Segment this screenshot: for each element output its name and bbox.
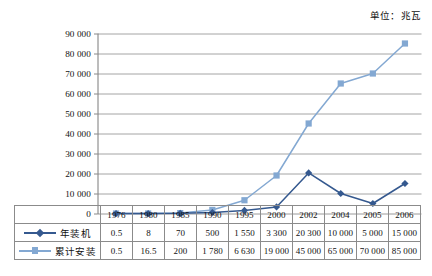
- table-cell: 0.5: [101, 224, 133, 242]
- y-axis-tick-label: 40 000: [65, 129, 91, 139]
- legend-cell-cumulative: 累计安装: [15, 242, 101, 260]
- table-header-year-1985: 1985: [165, 206, 197, 224]
- legend-swatch-icon: [24, 227, 56, 238]
- table-cell: 70: [165, 224, 197, 242]
- table-cell: 200: [165, 242, 197, 260]
- chart-plot-area: 010 00020 00030 00040 00050 00060 00070 …: [0, 0, 432, 222]
- table-cell: 65 000: [325, 242, 357, 260]
- table-header-year-2000: 2000: [261, 206, 293, 224]
- y-axis-tick-labels: 010 00020 00030 00040 00050 00060 00070 …: [65, 29, 91, 219]
- y-axis-tick-label: 80 000: [65, 49, 91, 59]
- table-corner-cell: [15, 206, 101, 224]
- gridlines: [94, 34, 422, 214]
- table-cell: 500: [197, 224, 229, 242]
- table-header-year-1980: 1980: [133, 206, 165, 224]
- y-axis-tick-label: 90 000: [65, 29, 91, 39]
- y-axis-tick-label: 30 000: [65, 149, 91, 159]
- legend-marker-square-icon: [32, 247, 39, 254]
- y-axis-tick-label: 10 000: [65, 189, 91, 199]
- table-row: 累计安装0.516.52001 7806 63019 00045 00065 0…: [15, 242, 421, 260]
- table-row: 年装机0.58705001 5503 30020 30010 0005 0001…: [15, 224, 421, 242]
- table-cell: 70 000: [357, 242, 389, 260]
- table-cell: 3 300: [261, 224, 293, 242]
- table-cell: 1 780: [197, 242, 229, 260]
- legend-marker-diamond-icon: [36, 228, 44, 236]
- table-cell: 1 550: [229, 224, 261, 242]
- table-cell: 6 630: [229, 242, 261, 260]
- table-header-year-1976: 1976: [101, 206, 133, 224]
- data-point-marker: [241, 197, 247, 203]
- table-header-row: 1976198019851990199520002002200420052006: [15, 206, 421, 224]
- data-table: 1976198019851990199520002002200420052006…: [14, 205, 421, 260]
- data-point-marker: [338, 80, 344, 86]
- table-header-year-2002: 2002: [293, 206, 325, 224]
- table-cell: 0.5: [101, 242, 133, 260]
- series-path: [116, 44, 405, 214]
- table-cell: 8: [133, 224, 165, 242]
- table-cell: 15 000: [389, 224, 421, 242]
- table-cell: 16.5: [133, 242, 165, 260]
- table-header-year-2004: 2004: [325, 206, 357, 224]
- table-cell: 19 000: [261, 242, 293, 260]
- y-axis-tick-label: 60 000: [65, 89, 91, 99]
- data-point-marker: [337, 190, 344, 197]
- table-header-year-2005: 2005: [357, 206, 389, 224]
- table-cell: 85 000: [389, 242, 421, 260]
- y-axis-tick-label: 20 000: [65, 169, 91, 179]
- data-point-marker: [401, 180, 408, 187]
- legend-cell-annual: 年装机: [15, 224, 101, 242]
- table-cell: 20 300: [293, 224, 325, 242]
- chart-page: 单位：兆瓦 010 00020 00030 00040 00050 00060 …: [0, 0, 432, 276]
- data-point-marker: [370, 70, 376, 76]
- data-point-marker: [402, 40, 408, 46]
- line-chart-svg: 010 00020 00030 00040 00050 00060 00070 …: [0, 0, 432, 222]
- table-cell: 45 000: [293, 242, 325, 260]
- table-header-year-1990: 1990: [197, 206, 229, 224]
- table-cell: 10 000: [325, 224, 357, 242]
- data-point-marker: [306, 120, 312, 126]
- legend-label: 累计安装: [55, 244, 96, 258]
- legend-label: 年装机: [60, 226, 91, 240]
- table-header-year-1995: 1995: [229, 206, 261, 224]
- y-axis-tick-label: 50 000: [65, 109, 91, 119]
- legend-swatch-icon: [19, 245, 51, 256]
- table-cell: 5 000: [357, 224, 389, 242]
- table-header-year-2006: 2006: [389, 206, 421, 224]
- y-axis-tick-label: 70 000: [65, 69, 91, 79]
- series-cumulative-line: [113, 40, 408, 216]
- data-point-marker: [273, 172, 279, 178]
